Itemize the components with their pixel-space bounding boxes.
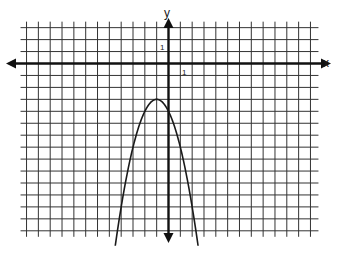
y-axis-label: y (164, 6, 170, 20)
y-axis-down-arrow-icon (164, 233, 174, 243)
coordinate-plane: x y 1 1 (0, 0, 343, 258)
x-axis-label: x (323, 56, 329, 70)
y-unit-tick-label: 1 (160, 43, 165, 52)
x-unit-tick-label: 1 (182, 68, 187, 77)
x-axis-left-arrow-icon (6, 59, 16, 69)
